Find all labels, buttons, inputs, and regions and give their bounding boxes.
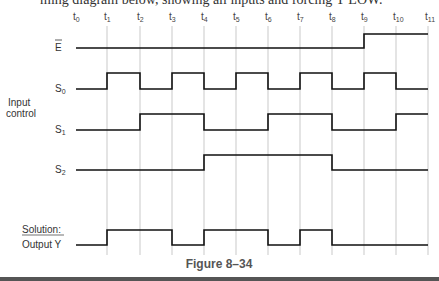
signal-label-s1: S1 bbox=[55, 124, 66, 136]
time-label-t5: t5 bbox=[233, 11, 240, 23]
time-labels: t0t1t2t3t4t5t6t7t8t9t10t11 bbox=[73, 11, 435, 23]
page-divider bbox=[0, 277, 439, 281]
solution-label: Solution: bbox=[22, 224, 61, 235]
waveforms bbox=[76, 34, 428, 245]
waveform-s2 bbox=[76, 155, 428, 170]
time-label-t4: t4 bbox=[201, 11, 208, 23]
signal-labels: ES0S1S2InputcontrolSolution:Output Y bbox=[6, 40, 66, 250]
time-label-t8: t8 bbox=[329, 11, 336, 23]
waveform-e bbox=[76, 34, 428, 48]
input-control-label: Input bbox=[8, 97, 30, 108]
time-label-t0: t0 bbox=[73, 11, 80, 23]
time-label-t2: t2 bbox=[137, 11, 144, 23]
time-gridlines bbox=[107, 26, 428, 255]
figure-caption: Figure 8–34 bbox=[186, 257, 253, 271]
output-y-label: Output Y bbox=[22, 239, 62, 250]
time-label-t7: t7 bbox=[297, 11, 304, 23]
signal-label-s0: S0 bbox=[55, 83, 66, 95]
waveform-output-y bbox=[76, 230, 428, 245]
signal-label-s2: S2 bbox=[55, 164, 66, 176]
timing-diagram: t0t1t2t3t4t5t6t7t8t9t10t11 ES0S1S2Inputc… bbox=[0, 0, 439, 281]
waveform-s1 bbox=[76, 114, 428, 130]
time-label-t6: t6 bbox=[265, 11, 272, 23]
input-control-label-2: control bbox=[6, 108, 36, 119]
signal-label-e: E bbox=[55, 42, 62, 53]
time-label-t10: t10 bbox=[393, 11, 404, 23]
waveform-s0 bbox=[76, 73, 428, 89]
time-label-t11: t11 bbox=[425, 11, 435, 23]
time-label-t1: t1 bbox=[104, 11, 111, 23]
time-label-t3: t3 bbox=[169, 11, 176, 23]
time-label-t9: t9 bbox=[361, 11, 368, 23]
